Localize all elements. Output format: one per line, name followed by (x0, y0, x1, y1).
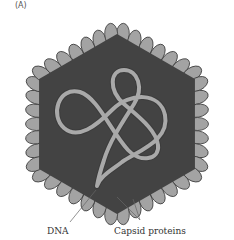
capsid-proteins-label: Capsid proteins (114, 226, 186, 236)
virus-diagram (0, 0, 234, 240)
dna-label: DNA (47, 226, 69, 236)
